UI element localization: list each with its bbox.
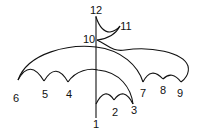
label-10: 10 — [83, 33, 95, 45]
outer-arc-6-to-7 — [18, 46, 143, 82]
scallop-5-to-4 — [44, 71, 68, 82]
label-7: 7 — [140, 87, 146, 99]
arc-4-to-3 — [68, 69, 133, 104]
label-8: 8 — [160, 84, 166, 96]
numbered-curve-diagram: 1 2 3 4 5 6 7 8 9 10 11 12 — [0, 0, 197, 133]
scallop-8-to-9 — [163, 75, 181, 82]
label-4: 4 — [66, 88, 72, 100]
label-1: 1 — [93, 118, 99, 130]
label-3: 3 — [131, 104, 137, 116]
label-2: 2 — [112, 106, 118, 118]
scallop-7-to-8 — [143, 73, 163, 82]
scallop-6-to-5 — [18, 69, 44, 81]
label-6: 6 — [13, 92, 19, 104]
curve-11-to-10 — [97, 26, 120, 40]
label-11: 11 — [120, 20, 131, 32]
curve-12-to-11 — [96, 17, 120, 32]
scallop-1-to-2 — [96, 94, 114, 104]
scallop-2-to-3 — [114, 94, 133, 104]
label-9: 9 — [177, 87, 183, 99]
label-5: 5 — [42, 88, 48, 100]
label-12: 12 — [90, 4, 102, 16]
